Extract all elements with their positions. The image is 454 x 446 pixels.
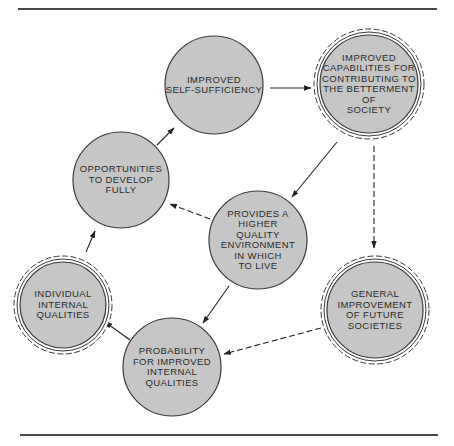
node-probability [123, 318, 221, 416]
arrow-environment-to-opportunities [170, 204, 210, 219]
node-circle [73, 132, 169, 228]
node-future-societies [321, 256, 429, 364]
node-circle [123, 318, 221, 416]
arrow-future-societies-to-probability [224, 328, 321, 354]
node-circle [327, 262, 423, 358]
node-circle [165, 36, 263, 134]
arrow-probability-to-individual [105, 322, 130, 340]
node-circle [20, 262, 106, 348]
arrow-capabilities-to-environment [292, 142, 337, 197]
node-self-sufficiency [165, 36, 263, 134]
cycle-diagram: IMPROVED SELF-SUFFICIENCYIMPROVED CAPABI… [0, 0, 454, 446]
node-environment [209, 191, 307, 289]
node-capabilities [314, 29, 424, 139]
node-circle [320, 35, 418, 133]
diagram-canvas [0, 0, 454, 446]
arrow-individual-to-opportunities [86, 231, 95, 252]
node-individual [14, 256, 112, 354]
arrow-environment-to-probability [203, 286, 229, 323]
nodes [14, 29, 429, 416]
node-opportunities [73, 132, 169, 228]
arrow-opportunities-to-self-sufficiency [157, 128, 174, 145]
node-circle [209, 191, 307, 289]
